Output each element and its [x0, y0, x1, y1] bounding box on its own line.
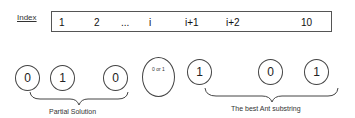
curly-braces: [0, 0, 355, 118]
best-ant-substring-caption: The best Ant substring: [231, 105, 301, 112]
partial-solution-caption: Partial Solution: [49, 108, 96, 115]
partial-solution-brace: [30, 92, 128, 105]
best-ant-substring-brace: [205, 88, 338, 102]
